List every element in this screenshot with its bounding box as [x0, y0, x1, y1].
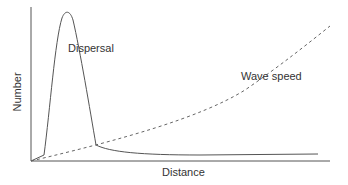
y-axis-label: Number — [11, 67, 23, 117]
wave-speed-label: Wave speed — [241, 70, 302, 82]
chart-canvas — [0, 0, 348, 185]
dispersal-curve — [31, 12, 318, 161]
dispersal-label: Dispersal — [68, 42, 114, 54]
x-axis-label: Distance — [162, 166, 205, 178]
